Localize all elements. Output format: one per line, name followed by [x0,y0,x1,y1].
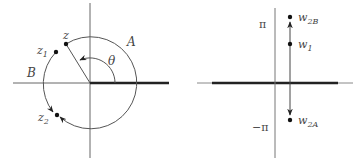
label-B: B [26,66,36,80]
radius-to-z [66,44,90,83]
path-B-arc [43,52,56,112]
point-w1 [288,42,292,46]
label-z: z [62,29,69,42]
label-neg-pi: −π [252,121,268,134]
label-theta: θ [108,54,116,68]
w-plane: π −π w2B w1 w2A [197,8,353,158]
label-pi: π [259,18,266,31]
label-w2B: w2B [298,11,319,26]
point-z2 [55,113,59,117]
label-z1: z1 [36,44,48,59]
diagram-canvas: z z1 z2 A B θ π −π w2B w1 w2A [0,0,361,164]
point-z1 [54,50,58,54]
point-w2A [288,118,292,122]
label-w2A: w2A [298,114,319,129]
point-w2B [288,15,292,19]
z-plane: z z1 z2 A B θ [13,3,169,158]
label-w1: w1 [298,38,313,53]
label-A: A [126,35,136,49]
label-z2: z2 [37,111,49,126]
point-z [64,42,68,46]
